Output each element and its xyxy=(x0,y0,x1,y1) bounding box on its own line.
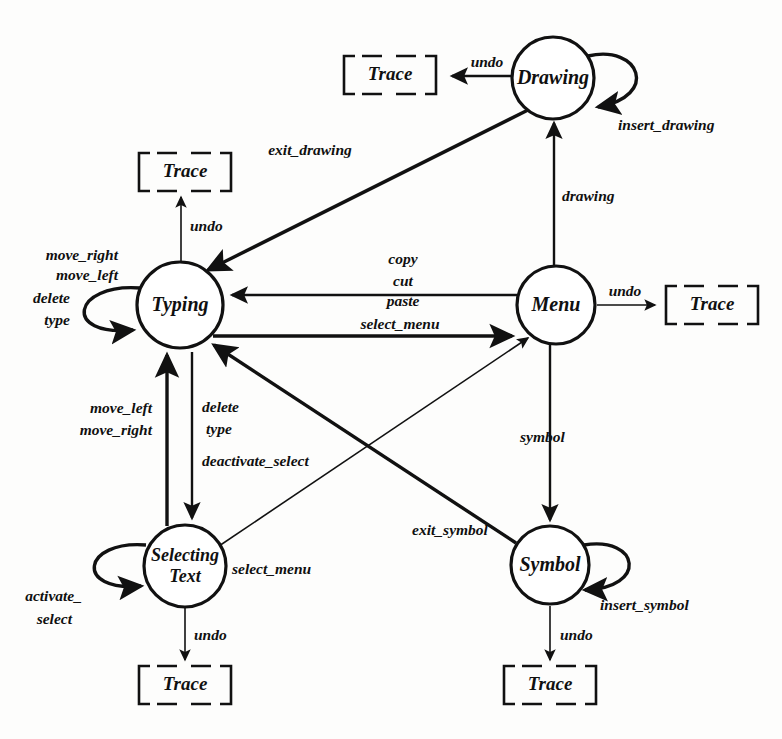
trace-label: Trace xyxy=(163,673,208,694)
edge-label: activate_ xyxy=(25,587,82,604)
state-node-typing[interactable]: Typing xyxy=(137,262,223,348)
edge-drawing-undo: undo xyxy=(452,53,512,76)
edge-label: deactivate_select xyxy=(202,452,309,469)
edge-drawing-self: insert_drawing xyxy=(588,54,715,132)
edge-label: move_right xyxy=(80,421,153,438)
trace-box-selecting: Trace xyxy=(139,666,231,704)
state-label: Menu xyxy=(531,293,581,315)
edge-label: drawing xyxy=(562,187,615,204)
edge-label: move_left xyxy=(56,266,119,283)
state-node-drawing[interactable]: Drawing xyxy=(512,37,594,119)
state-label-line1: Selecting xyxy=(151,545,219,565)
edge-selecting-undo: undo xyxy=(185,608,227,660)
edge-label: undo xyxy=(190,217,223,234)
edge-menu-undo: undo xyxy=(597,282,655,305)
edge-label: move_left xyxy=(90,399,153,416)
edge-label: select xyxy=(36,610,73,627)
edge-label: undo xyxy=(609,282,642,299)
state-node-selecting-text[interactable]: Selecting Text xyxy=(144,525,226,607)
edge-typing-self: move_right move_left delete type xyxy=(33,246,140,331)
state-label: Drawing xyxy=(516,66,589,89)
trace-box-menu: Trace xyxy=(666,286,758,324)
edge-label: undo xyxy=(194,626,227,643)
trace-label: Trace xyxy=(163,160,208,181)
edge-typing-menu: select_menu xyxy=(213,315,512,336)
edge-label: exit_drawing xyxy=(268,141,352,158)
trace-box-symbol: Trace xyxy=(504,666,596,704)
edge-drawing-exit: exit_drawing xyxy=(208,110,528,270)
edge-label: undo xyxy=(560,626,593,643)
state-label: Typing xyxy=(151,293,208,316)
edge-symbol-undo: undo xyxy=(550,606,593,660)
edge-label: delete xyxy=(202,398,239,415)
edge-label: insert_drawing xyxy=(618,116,715,133)
edge-label: select_menu xyxy=(359,315,440,332)
edge-menu-drawing: drawing xyxy=(554,123,615,266)
state-diagram-canvas: Trace Trace Trace Trace xyxy=(0,0,782,739)
edge-symbol-self: insert_symbol xyxy=(584,544,689,613)
edge-label: copy xyxy=(388,250,417,267)
edge-menu-symbol: symbol xyxy=(519,345,565,520)
edge-typing-selecting: delete type deactivate_select xyxy=(192,352,309,518)
edge-label: symbol xyxy=(519,428,565,445)
edge-label: move_right xyxy=(46,246,119,263)
state-label: Symbol xyxy=(519,553,581,576)
edge-label: cut xyxy=(393,272,414,289)
edge-label: type xyxy=(44,311,70,328)
trace-box-drawing: Trace xyxy=(344,56,436,94)
trace-label: Trace xyxy=(368,63,413,84)
edge-symbol-typing: exit_symbol xyxy=(214,345,516,543)
state-diagram-root: Trace Trace Trace Trace xyxy=(0,0,782,739)
edge-label: insert_symbol xyxy=(600,596,689,613)
state-node-menu[interactable]: Menu xyxy=(517,266,595,344)
edge-typing-undo: undo xyxy=(181,197,223,262)
edge-menu-typing: copy cut paste xyxy=(232,250,517,309)
edge-label: select_menu xyxy=(231,560,312,577)
state-label-line2: Text xyxy=(169,566,201,586)
edge-label: delete xyxy=(33,289,70,306)
state-node-symbol[interactable]: Symbol xyxy=(511,526,589,604)
trace-label: Trace xyxy=(528,673,573,694)
edge-label: type xyxy=(206,420,232,437)
edge-selecting-typing: move_left move_right xyxy=(80,355,167,526)
trace-box-typing: Trace xyxy=(139,153,231,191)
edge-label: paste xyxy=(385,292,420,309)
edge-label: exit_symbol xyxy=(412,521,488,538)
edge-selecting-self: activate_ select xyxy=(25,545,146,627)
trace-label: Trace xyxy=(690,293,735,314)
edge-label: undo xyxy=(471,53,504,70)
